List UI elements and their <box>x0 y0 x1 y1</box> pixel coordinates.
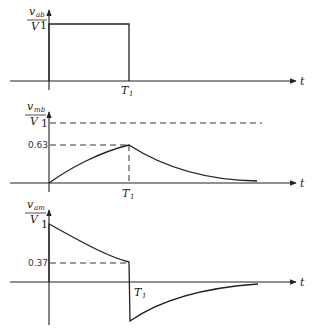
svg-text:V: V <box>30 115 39 128</box>
svg-text:v: v <box>29 5 36 18</box>
tick-label-063: 0.63 <box>28 140 48 150</box>
panel-vam: t v am V 1 0.37 T 1 <box>10 198 305 325</box>
tick-label-1: 1 <box>41 117 48 130</box>
svg-text:1: 1 <box>129 90 133 98</box>
pulse-waveform <box>49 24 129 81</box>
svg-text:1: 1 <box>142 292 146 300</box>
svg-text:am: am <box>34 204 45 212</box>
time-axis-label: t <box>300 75 305 88</box>
panel-vmb: t v mb V 1 0.63 T 1 <box>10 100 305 201</box>
tick-label-037: 0.37 <box>28 258 48 268</box>
svg-text:v: v <box>27 198 34 211</box>
svg-text:V: V <box>31 20 40 33</box>
tick-label-1: 1 <box>40 19 47 32</box>
tick-label-1: 1 <box>41 218 48 231</box>
svg-text:V: V <box>30 213 39 226</box>
t1-label: T 1 <box>122 187 134 201</box>
charge-discharge-curve <box>49 145 257 183</box>
t1-label: T 1 <box>121 84 133 98</box>
svg-text:mb: mb <box>34 106 46 114</box>
waveform-figure: t v ab V 1 T 1 t v mb V 1 0.63 <box>0 0 314 335</box>
svg-text:1: 1 <box>130 193 134 201</box>
resistor-voltage-curve <box>49 224 258 321</box>
time-axis-label: t <box>300 177 305 190</box>
svg-text:v: v <box>27 100 34 113</box>
time-axis-label: t <box>300 276 305 289</box>
svg-text:ab: ab <box>36 11 45 19</box>
t1-label: T 1 <box>134 286 146 300</box>
panel-vab: t v ab V 1 T 1 <box>10 5 305 98</box>
